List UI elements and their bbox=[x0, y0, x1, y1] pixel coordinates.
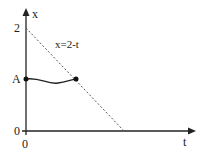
diagram: x t 2 A 0 0 x=2-t bbox=[0, 0, 204, 156]
line-label: x=2-t bbox=[55, 38, 79, 50]
t-axis-arrow-icon bbox=[188, 128, 196, 135]
curve-endpoint bbox=[74, 77, 79, 82]
trajectory-curve bbox=[26, 79, 76, 84]
x-axis-arrow-icon bbox=[23, 8, 30, 16]
y-axis-label: x bbox=[32, 7, 38, 21]
y-tick-0: 0 bbox=[14, 124, 20, 138]
point-A bbox=[24, 77, 29, 82]
x-axis-label: t bbox=[183, 135, 187, 149]
y-tick-2: 2 bbox=[14, 21, 20, 35]
y-tick-A: A bbox=[12, 72, 21, 86]
x-tick-0: 0 bbox=[22, 137, 28, 151]
